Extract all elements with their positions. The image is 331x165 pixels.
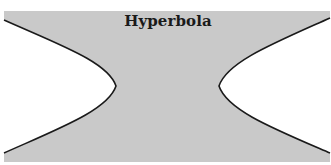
hyperbola-diagram: Hyperbola — [0, 0, 331, 165]
diagram-title: Hyperbola — [0, 12, 331, 30]
